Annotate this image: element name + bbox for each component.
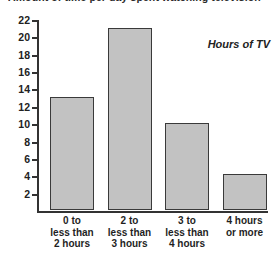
y-tick-label: 20 [18, 31, 30, 43]
y-tick-label: 10 [18, 118, 30, 130]
x-axis-label-line: less than [43, 227, 101, 239]
x-axis-label: 2 toless than3 hours [101, 215, 159, 250]
bar [165, 123, 209, 210]
y-tick-label: 18 [18, 49, 30, 61]
x-axis-label: 0 toless than2 hours [43, 215, 101, 250]
x-axis-label-line: less than [101, 227, 159, 239]
x-axis-label-line: 0 to [43, 215, 101, 227]
bar [50, 97, 94, 210]
x-axis-line [37, 211, 268, 213]
y-tick-mark [32, 124, 37, 126]
x-axis-label-line: 3 to [158, 215, 216, 227]
bar-chart: Amount of time per day spent watching te… [0, 0, 278, 261]
y-tick-label: 6 [24, 153, 30, 165]
y-tick-label: 14 [18, 83, 30, 95]
y-tick-label: 16 [18, 66, 30, 78]
y-tick-mark [32, 72, 37, 74]
x-axis-label-line: or more [216, 227, 274, 239]
chart-annotation: Hours of TV [208, 38, 270, 50]
x-axis-label-line: 4 hours [158, 238, 216, 250]
y-tick-label: 8 [24, 136, 30, 148]
y-tick-mark [32, 176, 37, 178]
x-axis-label-line: 3 hours [101, 238, 159, 250]
x-axis-label-line: less than [158, 227, 216, 239]
chart-title-clipped: Amount of time per day spent watching te… [8, 0, 270, 3]
y-tick-label: 22 [18, 14, 30, 26]
x-axis-label-line: 2 hours [43, 238, 101, 250]
x-axis-label: 3 toless than4 hours [158, 215, 216, 250]
x-axis-label-line: 2 to [101, 215, 159, 227]
y-tick-label: 12 [18, 101, 30, 113]
y-tick-mark [32, 159, 37, 161]
x-axis-label-line: 4 hours [216, 215, 274, 227]
y-tick-mark [32, 55, 37, 57]
y-tick-mark [32, 89, 37, 91]
x-axis-label: 4 hoursor more [216, 215, 274, 238]
x-axis-labels: 0 toless than2 hours2 toless than3 hours… [37, 215, 274, 259]
y-tick-mark [32, 142, 37, 144]
bar [223, 174, 267, 210]
y-tick-label: 2 [24, 188, 30, 200]
y-tick-mark [32, 194, 37, 196]
y-tick-mark [32, 20, 37, 22]
y-tick-label: 4 [24, 170, 30, 182]
y-tick-mark [32, 107, 37, 109]
bar [108, 28, 152, 210]
y-tick-mark [32, 37, 37, 39]
